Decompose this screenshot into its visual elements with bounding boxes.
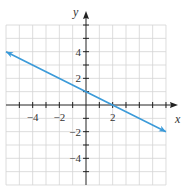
x-tick-label: −2: [53, 111, 65, 123]
tick-marks: [19, 25, 166, 172]
y-axis-label: y: [72, 5, 79, 19]
y-tick-label: −4: [69, 152, 81, 164]
axes: [6, 11, 178, 185]
coordinate-plane: −4−2242−2−4 x y: [0, 0, 185, 191]
y-tick-label: 2: [76, 72, 82, 84]
y-tick-label: −2: [69, 126, 81, 138]
x-tick-label: 2: [110, 111, 116, 123]
x-axis-arrow-icon: [170, 102, 178, 108]
x-tick-label: −4: [27, 111, 39, 123]
y-axis-arrow-icon: [83, 11, 89, 19]
x-axis-label: x: [174, 112, 181, 126]
y-tick-label: 4: [76, 46, 82, 58]
